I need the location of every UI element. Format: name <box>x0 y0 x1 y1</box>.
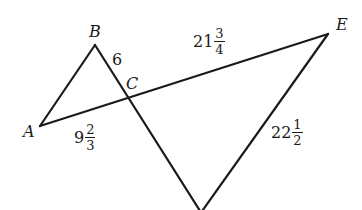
measure-ac-whole: 9 <box>74 130 84 146</box>
measure-ac-numerator: 2 <box>85 123 95 138</box>
segment-ed <box>200 34 328 210</box>
measure-ed-fraction: 1 2 <box>292 118 302 147</box>
label-point-b: B <box>89 24 101 40</box>
segment-ab <box>40 45 95 126</box>
label-point-c: C <box>126 76 138 92</box>
measure-bc: 6 <box>112 52 122 68</box>
measure-ce-denominator: 4 <box>215 42 223 56</box>
segment-bd <box>95 45 202 210</box>
measure-ce-whole: 21 <box>193 34 213 50</box>
measure-ed-denominator: 2 <box>293 133 301 147</box>
measure-ac: 9 2 3 <box>74 123 95 152</box>
label-point-e: E <box>336 17 348 33</box>
label-point-a: A <box>23 124 35 140</box>
measure-ce: 21 3 4 <box>193 27 225 56</box>
segment-ae <box>40 34 328 126</box>
measure-ed-numerator: 1 <box>292 118 302 133</box>
measure-ed: 22 1 2 <box>271 118 303 147</box>
measure-ed-whole: 22 <box>271 125 291 141</box>
measure-ce-numerator: 3 <box>214 27 224 42</box>
measure-ac-fraction: 2 3 <box>85 123 95 152</box>
measure-ac-denominator: 3 <box>86 138 94 152</box>
geometry-figure <box>0 0 362 210</box>
measure-ce-fraction: 3 4 <box>214 27 224 56</box>
